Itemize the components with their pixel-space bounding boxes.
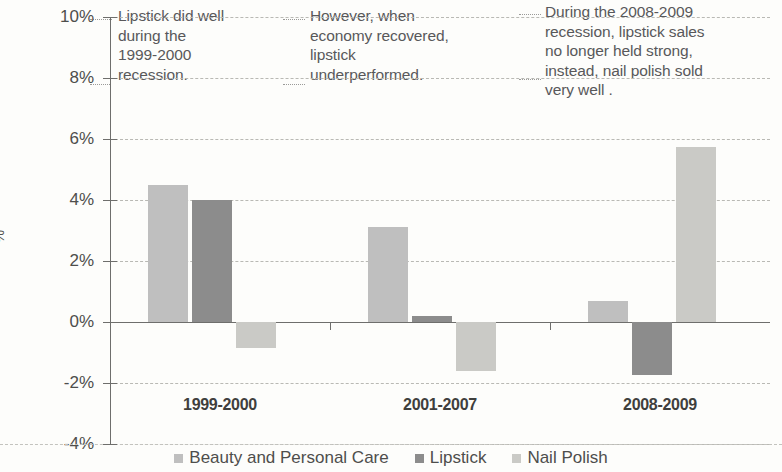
y-axis-tick-label: 8% — [34, 68, 94, 88]
y-axis-tick — [103, 444, 117, 445]
x-axis-label-2008-2009: 2008-2009 — [550, 396, 770, 414]
gridline — [110, 139, 770, 140]
bar-beauty-and-personal-care-1999-2000 — [148, 185, 188, 322]
category-tick — [330, 322, 331, 330]
legend-item-lipstick[interactable]: Lipstick — [415, 448, 487, 468]
chart-legend: Beauty and Personal CareLipstickNail Pol… — [0, 448, 782, 468]
bar-nail-polish-2001-2007 — [456, 322, 496, 371]
x-axis-label-1999-2000: 1999-2000 — [110, 396, 330, 414]
gridline — [110, 17, 770, 18]
gridline — [110, 383, 770, 384]
y-axis-tick — [103, 139, 117, 140]
plot-area — [110, 17, 770, 444]
legend-label: Beauty and Personal Care — [189, 448, 388, 468]
y-axis-labels: 10%8%6%4%2%0%-2%-4% — [22, 0, 94, 472]
category-tick — [550, 322, 551, 330]
y-axis-tick-label: -2% — [34, 373, 94, 393]
y-axis-tick — [103, 78, 117, 79]
bar-chart: Lipstick did well during the 1999-2000 r… — [0, 0, 782, 472]
bar-nail-polish-2008-2009 — [676, 147, 716, 322]
y-axis-tick — [103, 200, 117, 201]
y-axis-tick — [103, 383, 117, 384]
legend-swatch-icon — [174, 454, 183, 463]
legend-swatch-icon — [415, 454, 424, 463]
y-axis-tick-label: 4% — [34, 190, 94, 210]
bar-lipstick-1999-2000 — [192, 200, 232, 322]
legend-divider — [0, 444, 782, 445]
x-axis-label-2001-2007: 2001-2007 — [330, 396, 550, 414]
y-axis-tick-label: 2% — [34, 251, 94, 271]
legend-label: Lipstick — [430, 448, 487, 468]
legend-item-nail-polish[interactable]: Nail Polish — [512, 448, 607, 468]
y-axis-tick — [103, 322, 117, 323]
bar-nail-polish-1999-2000 — [236, 322, 276, 348]
legend-item-beauty-and-personal-care[interactable]: Beauty and Personal Care — [174, 448, 388, 468]
gridline — [110, 78, 770, 79]
y-axis-tick-label: 0% — [34, 312, 94, 332]
bar-beauty-and-personal-care-2001-2007 — [368, 227, 408, 322]
legend-label: Nail Polish — [527, 448, 607, 468]
y-axis-tick — [103, 261, 117, 262]
y-axis-tick — [103, 17, 117, 18]
y-axis-title: % — [0, 230, 7, 243]
legend-swatch-icon — [512, 454, 521, 463]
y-axis-tick-label: 10% — [34, 7, 94, 27]
bar-lipstick-2008-2009 — [632, 322, 672, 375]
bar-lipstick-2001-2007 — [412, 316, 452, 322]
bar-beauty-and-personal-care-2008-2009 — [588, 301, 628, 322]
annotation-leader-icon — [519, 14, 541, 15]
y-axis-tick-label: 6% — [34, 129, 94, 149]
